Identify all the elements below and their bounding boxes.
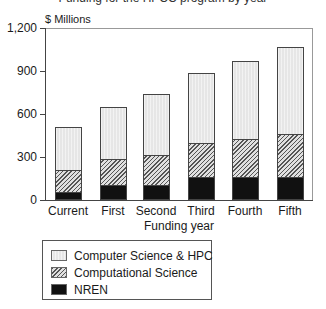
nren-segment — [232, 177, 259, 200]
y-tick-label: 0 — [0, 194, 37, 206]
nren-swatch-icon — [51, 284, 67, 295]
bar-current — [55, 128, 82, 200]
y-tick — [40, 200, 45, 201]
computational-science-segment — [232, 139, 259, 179]
chart-title: Funding for the HPCC program by year — [0, 0, 326, 5]
y-tick — [40, 71, 45, 72]
cs-hpc-segment — [143, 94, 170, 155]
plot-frame — [45, 28, 313, 200]
bar-fifth — [277, 48, 304, 200]
y-axis-unit: $ Millions — [45, 13, 91, 25]
computational-science-segment — [277, 134, 304, 178]
bar-third — [188, 74, 215, 200]
cs-hpc-segment — [55, 127, 82, 171]
x-tick-label: Third — [176, 204, 226, 218]
bar-fourth — [232, 62, 259, 200]
nren-segment — [277, 177, 304, 200]
x-tick-label: Fourth — [220, 204, 270, 218]
nren-segment — [188, 177, 215, 200]
legend-label: Computer Science & HPC — [74, 249, 213, 263]
cs-hpc-segment — [188, 73, 215, 144]
y-tick-label: 300 — [0, 151, 37, 163]
nren-segment — [55, 192, 82, 200]
computational-science-segment — [100, 159, 127, 186]
x-axis — [45, 200, 313, 201]
cs-hpc-segment — [100, 107, 127, 160]
y-axis — [45, 28, 46, 200]
legend-label: NREN — [74, 283, 108, 297]
bar-second — [143, 95, 170, 200]
legend: Computer Science & HPC Computational Sci… — [42, 240, 212, 300]
nren-segment — [143, 185, 170, 200]
legend-label: Computational Science — [74, 266, 197, 280]
y-tick-label: 1,200 — [0, 22, 37, 34]
cs-hpc-segment — [277, 47, 304, 135]
cs-hpc-swatch-icon — [51, 250, 67, 261]
y-tick — [40, 114, 45, 115]
computational-science-segment — [55, 170, 82, 193]
cs-hpc-segment — [232, 61, 259, 139]
y-tick — [40, 157, 45, 158]
y-tick — [40, 28, 45, 29]
y-tick-label: 600 — [0, 108, 37, 120]
computational-science-segment — [188, 143, 215, 178]
nren-segment — [100, 185, 127, 200]
x-tick-label: Current — [43, 204, 93, 218]
y-tick-label: 900 — [0, 65, 37, 77]
bar-first — [100, 108, 127, 200]
computational-science-swatch-icon — [51, 267, 67, 278]
x-tick-label: Fifth — [265, 204, 315, 218]
computational-science-segment — [143, 155, 170, 186]
x-tick-label: Second — [131, 204, 181, 218]
x-axis-title: Funding year — [45, 219, 313, 233]
